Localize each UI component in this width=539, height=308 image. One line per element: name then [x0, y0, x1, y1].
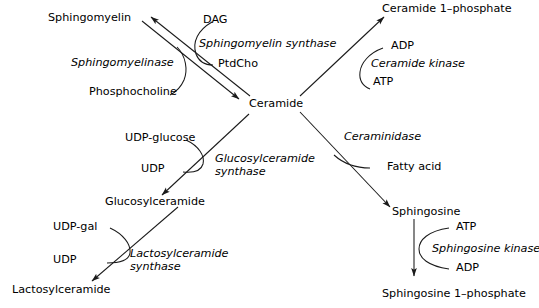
pathway-diagram: Sphingomyelin Ceramide Ceramide 1–phosph… [0, 0, 539, 308]
node-ceramide-1-phosphate: Ceramide 1–phosphate [382, 3, 512, 16]
node-sphingomyelin: Sphingomyelin [48, 12, 131, 25]
enzyme-ceramide-kinase: Ceramide kinase [371, 58, 465, 71]
enzyme-glucosylceramide-synthase-line1: Glucosylceramide [215, 153, 315, 166]
node-glucosylceramide: Glucosylceramide [105, 196, 205, 209]
cofactor-dag: DAG [203, 14, 228, 27]
cofactor-atp-sphingosine-kinase: ATP [456, 221, 476, 234]
node-sphingosine-1-phosphate: Sphingosine 1–phosphate [382, 288, 526, 301]
cofactor-ptdcho: PtdCho [218, 58, 258, 71]
cofactor-adp-ceramide-kinase: ADP [391, 40, 414, 53]
cofactor-udp-glucosylceramide-synthase: UDP [141, 163, 165, 176]
curve-fatty-acid [334, 155, 370, 168]
enzyme-sphingomyelin-synthase: Sphingomyelin synthase [199, 38, 336, 51]
enzyme-sphingomyelinase: Sphingomyelinase [71, 57, 174, 70]
enzyme-sphingosine-kinase: Sphingosine kinase [432, 243, 539, 256]
cofactor-atp-ceramide-kinase: ATP [373, 76, 393, 89]
enzyme-lactosylceramide-synthase-line1: Lactosylceramide [130, 248, 229, 261]
cofactor-fatty-acid: Fatty acid [387, 161, 441, 174]
node-lactosylceramide: Lactosylceramide [12, 284, 111, 297]
enzyme-lactosylceramide-synthase-line2: synthase [130, 261, 181, 274]
cofactor-udp-gal: UDP-gal [53, 221, 97, 234]
curve-udp-glucose-to-udp [183, 140, 203, 172]
enzyme-glucosylceramide-synthase-line2: synthase [215, 166, 266, 179]
cofactor-phosphocholine: Phosphocholine [89, 86, 177, 99]
cofactor-udp-glucose: UDP-glucose [125, 132, 195, 145]
cofactor-udp-lactosylceramide-synthase: UDP [53, 254, 77, 267]
enzyme-ceraminidase: Ceraminidase [344, 131, 421, 144]
node-ceramide: Ceramide [249, 98, 303, 111]
cofactor-adp-sphingosine-kinase: ADP [456, 262, 479, 275]
node-sphingosine: Sphingosine [392, 206, 460, 219]
